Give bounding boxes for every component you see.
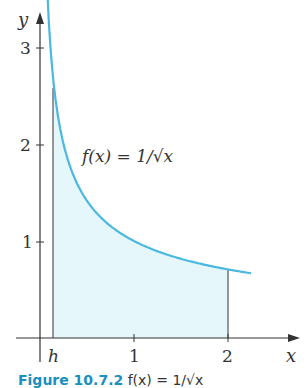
x-tick-label-h: h bbox=[48, 346, 59, 366]
x-tick-label-1: 1 bbox=[129, 346, 140, 366]
function-label: f(x) = 1/√x bbox=[80, 146, 174, 166]
y-tick-label-2: 2 bbox=[20, 135, 31, 155]
shaded-area bbox=[53, 79, 228, 338]
x-axis-label: x bbox=[286, 345, 296, 366]
y-axis-arrow-icon bbox=[36, 12, 44, 24]
x-axis-arrow-icon bbox=[288, 334, 300, 342]
caption-text: f(x) = 1/√x bbox=[128, 372, 204, 388]
caption-prefix: Figure 10.7.2 bbox=[18, 372, 123, 388]
x-tick-label-2: 2 bbox=[222, 346, 233, 366]
y-tick-label-1: 1 bbox=[22, 232, 33, 252]
y-tick-label-3: 3 bbox=[20, 38, 31, 58]
y-axis-label: y bbox=[17, 9, 29, 30]
figure-caption: Figure 10.7.2 f(x) = 1/√x bbox=[18, 372, 203, 388]
